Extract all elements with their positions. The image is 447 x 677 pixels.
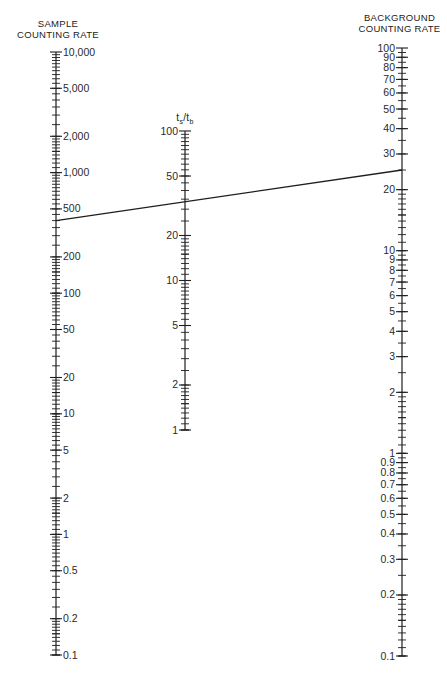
ratio-tick-label: 1: [172, 424, 178, 436]
sample-tick-label: 2: [63, 492, 69, 504]
time-ratio-axis: 100502010521: [160, 125, 191, 436]
ratio-tick-label: 5: [172, 319, 178, 331]
background-tick-label: 40: [383, 122, 395, 134]
background-counting-rate-axis: 0.10.20.30.40.50.60.70.80.91234567891020…: [377, 42, 408, 662]
background-tick-label: 3: [389, 350, 395, 362]
sample-tick-label: 2,000: [63, 130, 89, 142]
sample-tick-label: 0.2: [63, 612, 78, 624]
background-tick-label: 60: [383, 86, 395, 98]
sample-tick-label: 5: [63, 444, 69, 456]
background-tick-label: 80: [383, 61, 395, 73]
ratio-tick-label: 20: [166, 229, 178, 241]
sample-tick-label: 10: [63, 407, 75, 419]
background-tick-label: 0.3: [380, 553, 395, 565]
background-tick-label: 2: [389, 386, 395, 398]
ratio-tick-label: 2: [172, 378, 178, 390]
background-tick-label: 0.1: [380, 650, 395, 662]
sample-tick-label: 50: [63, 323, 75, 335]
sample-tick-label: 1: [63, 528, 69, 540]
ratio-tick-label: 50: [166, 170, 178, 182]
background-tick-label: 0.4: [380, 527, 395, 539]
background-tick-label: 20: [383, 183, 395, 195]
background-tick-label: 0.2: [380, 588, 395, 600]
background-tick-label: 10: [383, 244, 395, 256]
background-tick-label: 30: [383, 147, 395, 159]
background-tick-label: 0.6: [380, 492, 395, 504]
ratio-tick-label: 100: [160, 125, 178, 137]
background-tick-label: 8: [389, 264, 395, 276]
background-tick-label: 0.7: [380, 478, 395, 490]
background-tick-label: 50: [383, 103, 395, 115]
background-tick-label: 6: [389, 289, 395, 301]
sample-tick-label: 1,000: [63, 166, 89, 178]
background-tick-label: 0.5: [380, 508, 395, 520]
nomogram: 10,0005,0002,0001,0005002001005020105210…: [0, 0, 447, 677]
isopleth-line: [56, 170, 402, 221]
sample-tick-label: 0.1: [63, 649, 78, 661]
sample-tick-label: 100: [63, 287, 81, 299]
background-tick-label: 4: [389, 325, 395, 337]
background-tick-label: 100: [377, 42, 395, 54]
sample-counting-rate-axis: 10,0005,0002,0001,0005002001005020105210…: [50, 46, 95, 661]
sample-tick-label: 200: [63, 250, 81, 262]
ratio-tick-label: 10: [166, 274, 178, 286]
sample-tick-label: 5,000: [63, 82, 89, 94]
background-tick-label: 5: [389, 305, 395, 317]
background-tick-label: 0.8: [380, 466, 395, 478]
sample-tick-label: 0.5: [63, 564, 78, 576]
background-tick-label: 70: [383, 73, 395, 85]
sample-tick-label: 500: [63, 202, 81, 214]
sample-tick-label: 20: [63, 371, 75, 383]
background-tick-label: 1: [389, 447, 395, 459]
background-tick-label: 7: [389, 276, 395, 288]
sample-tick-label: 10,000: [63, 46, 95, 58]
